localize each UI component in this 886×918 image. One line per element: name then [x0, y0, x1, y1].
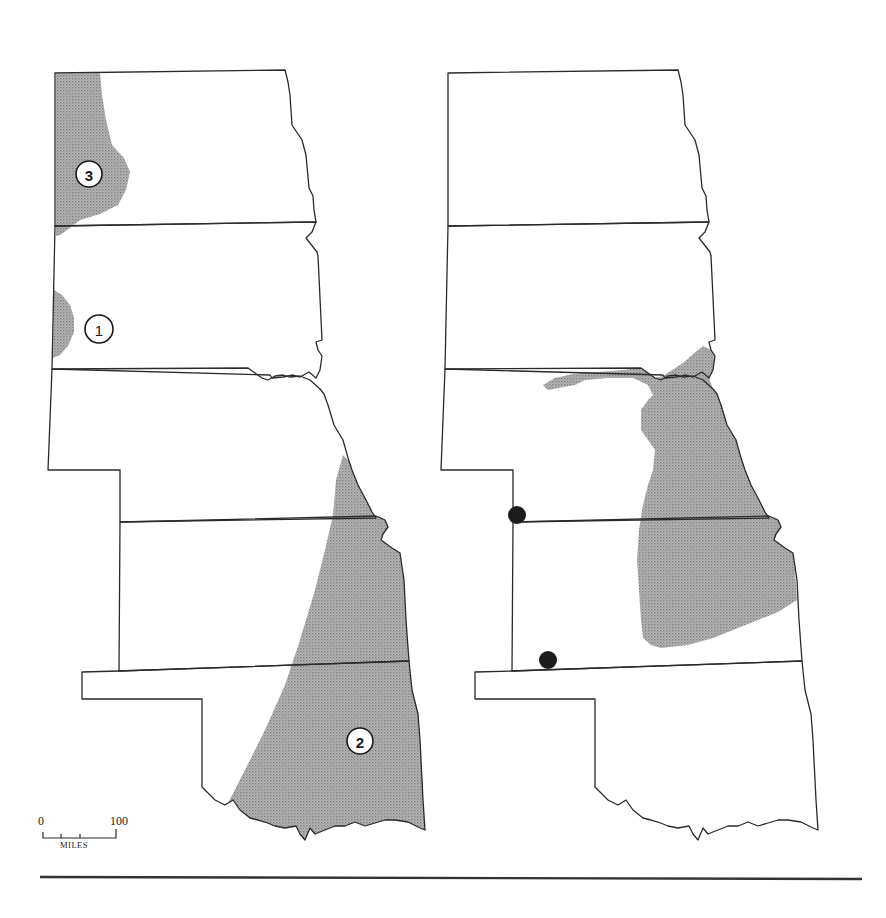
- range-label-2: 2: [347, 728, 373, 754]
- svg-text:3: 3: [85, 167, 93, 184]
- range-label-3: 3: [76, 161, 102, 187]
- range-3-area: [56, 73, 130, 236]
- svg-text:0: 0: [38, 814, 44, 828]
- right-map-state-outlines: [441, 70, 818, 840]
- locality-dot-2: [539, 651, 557, 669]
- svg-text:1: 1: [95, 322, 103, 339]
- left-map: 3 1 2: [48, 70, 425, 840]
- range-1-area: [53, 290, 74, 358]
- locality-dot-1: [508, 506, 526, 524]
- right-range-area: [543, 346, 797, 648]
- right-map: [441, 70, 818, 840]
- scale-bar: 0 100 MILES: [38, 814, 128, 850]
- range-2-area: [228, 455, 425, 840]
- map-figure: 3 1 2 0 100 MILES: [0, 0, 886, 918]
- svg-text:MILES: MILES: [60, 840, 88, 850]
- svg-text:2: 2: [356, 734, 364, 751]
- bottom-rule: [40, 877, 862, 879]
- svg-text:100: 100: [110, 814, 128, 828]
- range-label-1: 1: [85, 315, 113, 343]
